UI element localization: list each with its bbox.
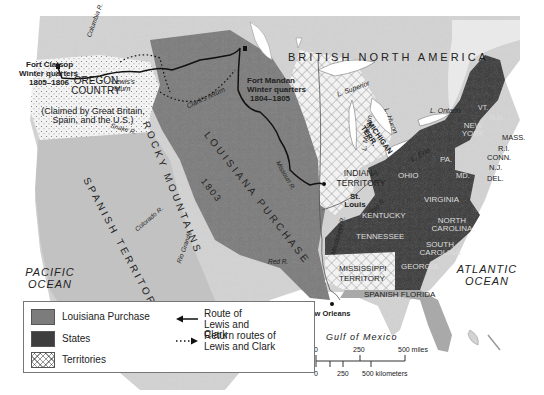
label-fort-mandan-2: Winter quarters <box>247 86 306 94</box>
label-lake-ontario: L. Ontario <box>430 107 461 114</box>
label-oregon-claim: (Claimed by Great Britain, Spain, and th… <box>38 107 148 125</box>
new-orleans-marker <box>330 302 334 306</box>
label-spanish-florida: SPANISH FLORIDA <box>364 291 435 299</box>
label-fort-clatsop-3: 1805–1806 <box>29 79 69 87</box>
label-state-south-carolina: SOUTH CAROLINA <box>418 241 462 257</box>
legend-label-territories: Territories <box>62 355 106 366</box>
label-fort-mandan-3: 1804–1805 <box>250 95 290 103</box>
legend-label-return-routes: Return routes of Lewis and Clark <box>204 331 284 352</box>
label-fort-mandan-1: Fort Mandan <box>247 77 295 85</box>
scale-miles-250: 250 <box>353 346 365 353</box>
label-pacific-ocean: PACIFIC OCEAN <box>22 267 78 290</box>
legend-return-arrow-icon <box>176 337 198 345</box>
label-indiana-territory: INDIANA TERRITORY <box>336 168 386 188</box>
label-gulf-of-mexico: Gulf of Mexico <box>326 333 398 342</box>
fort-mandan-marker <box>243 46 247 51</box>
label-state-virginia: VIRGINIA <box>424 196 459 204</box>
legend-label-louisiana-purchase: Louisiana Purchase <box>62 312 150 323</box>
label-fort-clatsop-1: Fort Clatsop <box>26 61 73 69</box>
label-state-del: DEL. <box>487 175 504 183</box>
label-red-river: Red R. <box>268 259 288 266</box>
label-state-mass: MASS. <box>502 134 525 142</box>
label-atlantic-ocean: ATLANTIC OCEAN <box>454 264 520 287</box>
legend-route-arrow-icon <box>176 315 198 323</box>
st-louis-marker <box>322 182 326 186</box>
label-state-georgia: GEORGIA <box>401 263 438 271</box>
label-state-ohio: OHIO <box>398 172 418 180</box>
label-state-md: MD. <box>456 172 470 180</box>
legend-swatch-territories <box>31 352 55 368</box>
scale-miles-500: 500 miles <box>398 346 428 353</box>
label-state-ri: R.I. <box>498 145 510 153</box>
label-state-ny: NEW YORK <box>456 122 490 138</box>
label-state-nh: N.H. <box>490 114 504 121</box>
scale-bar <box>316 355 405 367</box>
label-mississippi-territory: MISSISSIPPI TERRITORY <box>339 264 397 283</box>
label-state-tennessee: TENNESSEE <box>356 233 404 241</box>
scale-km-250: 250 <box>337 370 349 377</box>
label-state-kentucky: KENTUCKY <box>362 212 406 220</box>
scale-km-500: 500 kilometers <box>362 370 408 377</box>
legend-label-states: States <box>62 334 90 345</box>
label-st-louis: St. Louis <box>342 193 368 209</box>
legend-swatch-louisiana-purchase <box>31 309 55 325</box>
legend-swatch-states <box>31 331 55 347</box>
label-british-north-america: BRITISH NORTH AMERICA <box>288 52 489 63</box>
label-state-pa: PA. <box>440 156 452 164</box>
label-state-north-carolina: NORTH CAROLINA <box>430 217 474 233</box>
label-state-conn: CONN. <box>487 154 511 162</box>
label-state-vt: VT. <box>478 104 488 111</box>
label-lewis-return: Lewis's return <box>112 78 138 92</box>
label-state-nj: N.J. <box>489 164 502 172</box>
map-legend: Louisiana Purchase States Territories Ro… <box>23 301 315 373</box>
